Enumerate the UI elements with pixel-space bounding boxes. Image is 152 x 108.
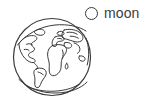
europe-detail <box>58 38 62 39</box>
south-america-landmass <box>34 68 46 88</box>
asia-detail-2 <box>70 36 78 38</box>
globe-limb-curve <box>86 38 89 65</box>
greenland-landmass <box>34 29 44 35</box>
south-america-detail <box>38 72 43 75</box>
asia-south-peninsula <box>74 43 80 53</box>
diagram-stage: moon <box>0 0 152 108</box>
australia-landmass <box>79 56 85 61</box>
asia-detail <box>67 32 77 34</box>
asia-landmass <box>62 29 83 42</box>
africa-landmass <box>48 45 67 76</box>
circle-outline-icon <box>85 7 98 20</box>
moon-legend-label: moon <box>104 6 139 20</box>
moon-legend: moon <box>85 4 139 22</box>
africa-detail <box>62 50 63 58</box>
north-america-detail <box>27 44 33 45</box>
north-america-detail-2 <box>24 49 29 50</box>
madagascar-landmass <box>65 63 68 69</box>
